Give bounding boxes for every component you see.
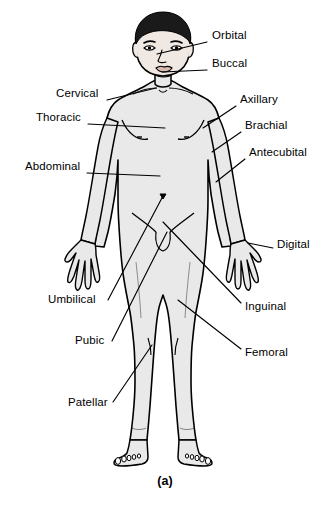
label-umbilical: Umbilical [48, 293, 96, 306]
label-pubic: Pubic [75, 334, 104, 347]
right-hand-shape [226, 240, 261, 290]
label-digital: Digital [277, 238, 310, 251]
anterior-body-diagram [0, 0, 330, 511]
label-axillary: Axillary [240, 93, 278, 106]
label-patellar: Patellar [68, 396, 108, 409]
left-hand-shape [65, 240, 100, 290]
label-cervical: Cervical [56, 87, 98, 100]
anatomy-figure: OrbitalBuccalCervicalThoracicAbdominalAx… [0, 0, 330, 511]
left-pupil [148, 46, 151, 49]
label-antecubital: Antecubital [249, 146, 307, 159]
label-thoracic: Thoracic [36, 111, 81, 124]
label-brachial: Brachial [245, 119, 287, 132]
label-femoral: Femoral [245, 346, 288, 359]
label-buccal: Buccal [212, 57, 247, 70]
label-orbital: Orbital [212, 29, 247, 42]
label-abdominal: Abdominal [25, 160, 80, 173]
label-inguinal: Inguinal [245, 300, 286, 313]
figure-caption: (a) [0, 474, 330, 488]
